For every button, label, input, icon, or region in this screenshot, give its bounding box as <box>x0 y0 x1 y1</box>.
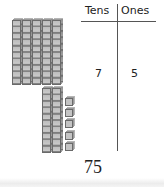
tens-rod <box>42 20 51 85</box>
total-number: 75 <box>84 157 102 177</box>
tens-rod <box>52 88 61 153</box>
tens-value: 7 <box>95 67 102 81</box>
tens-rod <box>32 20 41 85</box>
ones-cube <box>65 132 73 140</box>
tens-rod <box>22 20 31 85</box>
tens-rod <box>52 20 61 85</box>
ones-cube <box>65 143 73 151</box>
tens-rod <box>42 88 51 153</box>
place-value-diagram: Tens Ones 7 5 75 <box>0 0 164 187</box>
ones-header: Ones <box>121 4 149 18</box>
ones-cube <box>65 120 73 128</box>
tens-header: Tens <box>85 4 109 18</box>
tens-rod <box>12 20 21 85</box>
bottom-shadow <box>0 178 164 187</box>
header-underline <box>81 21 156 22</box>
column-divider <box>117 4 118 151</box>
ones-value: 5 <box>131 67 138 81</box>
ones-cube <box>65 98 73 106</box>
ones-cube <box>65 109 73 117</box>
